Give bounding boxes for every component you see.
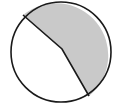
divided-circle-diagram bbox=[0, 0, 119, 104]
